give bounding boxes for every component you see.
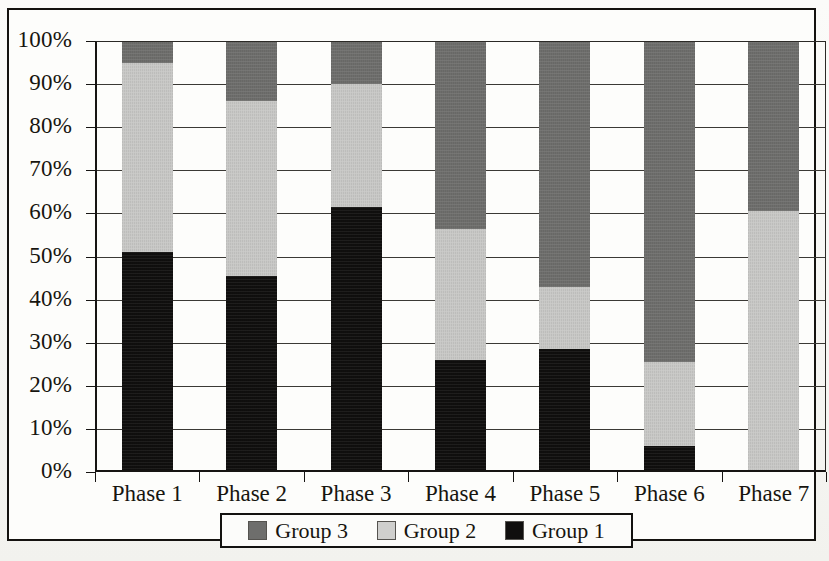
x-axis-label-phase-1: Phase 1 <box>95 482 199 506</box>
bar-segment-group1[interactable] <box>331 207 382 472</box>
bar-segment-group1[interactable] <box>435 360 486 472</box>
bar-segment-group3[interactable] <box>644 41 695 362</box>
bar-phase-3[interactable] <box>331 41 382 472</box>
bar-segment-group2[interactable] <box>435 229 486 360</box>
y-axis-tick <box>86 257 95 258</box>
y-axis-tick <box>86 472 95 473</box>
legend-swatch-group-1-icon <box>505 521 524 540</box>
bar-segment-group2[interactable] <box>644 362 695 446</box>
y-axis-label: 60% <box>9 200 72 223</box>
bar-segment-group1[interactable] <box>226 276 277 472</box>
y-axis-label: 90% <box>9 71 72 94</box>
figure-frame: 0%10%20%30%40%50%60%70%80%90%100% Phase … <box>7 8 816 541</box>
legend-item-group-1: Group 1 <box>505 520 605 542</box>
y-axis-tick <box>86 429 95 430</box>
y-axis-tick <box>86 213 95 214</box>
chart-screenshot: 0%10%20%30%40%50%60%70%80%90%100% Phase … <box>0 0 829 561</box>
legend-swatch-group-2-icon <box>377 521 396 540</box>
bar-segment-group2[interactable] <box>748 211 799 472</box>
plot-area <box>95 41 826 472</box>
legend-label-group-3: Group 3 <box>275 520 348 542</box>
legend-label-group-2: Group 2 <box>404 520 477 542</box>
bar-segment-group2[interactable] <box>226 101 277 276</box>
x-axis-label-phase-3: Phase 3 <box>304 482 408 506</box>
x-axis-tick <box>95 472 96 482</box>
bar-segment-group3[interactable] <box>226 41 277 101</box>
bar-phase-1[interactable] <box>122 41 173 472</box>
bar-phase-4[interactable] <box>435 41 486 472</box>
bar-segment-group3[interactable] <box>539 41 590 287</box>
y-axis-tick <box>86 41 95 42</box>
x-axis-label-phase-4: Phase 4 <box>408 482 512 506</box>
legend-label-group-1: Group 1 <box>532 520 605 542</box>
y-axis-label: 10% <box>9 416 72 439</box>
y-axis-label: 100% <box>9 28 72 51</box>
x-axis-label-phase-7: Phase 7 <box>722 482 826 506</box>
bar-segment-group2[interactable] <box>122 63 173 253</box>
y-axis-tick <box>86 127 95 128</box>
y-axis-tick <box>86 170 95 171</box>
x-axis-tick <box>722 472 723 482</box>
y-axis-label: 0% <box>9 459 72 482</box>
x-axis-tick <box>408 472 409 482</box>
y-axis-label: 30% <box>9 330 72 353</box>
y-axis-label: 40% <box>9 287 72 310</box>
bar-segment-group1[interactable] <box>539 349 590 472</box>
x-axis-tick <box>513 472 514 482</box>
legend-swatch-group-3-icon <box>248 521 267 540</box>
legend-item-group-2: Group 2 <box>377 520 477 542</box>
chart-legend: Group 3 Group 2 Group 1 <box>220 513 633 548</box>
x-axis-tick <box>304 472 305 482</box>
y-axis-tick <box>86 386 95 387</box>
legend-item-group-3: Group 3 <box>248 520 348 542</box>
bar-segment-group3[interactable] <box>748 41 799 211</box>
x-axis-tick <box>617 472 618 482</box>
y-axis-tick <box>86 84 95 85</box>
bar-segment-group3[interactable] <box>435 41 486 228</box>
bar-phase-5[interactable] <box>539 41 590 472</box>
bar-segment-group3[interactable] <box>331 41 382 84</box>
bar-segment-group1[interactable] <box>122 252 173 472</box>
x-axis-label-phase-2: Phase 2 <box>199 482 303 506</box>
bar-phase-7[interactable] <box>748 41 799 472</box>
bar-phase-6[interactable] <box>644 41 695 472</box>
bar-segment-group3[interactable] <box>122 41 173 63</box>
x-axis-label-phase-6: Phase 6 <box>617 482 721 506</box>
y-axis-tick <box>86 343 95 344</box>
x-axis-tick <box>199 472 200 482</box>
y-axis-label: 70% <box>9 157 72 180</box>
x-axis-label-phase-5: Phase 5 <box>513 482 617 506</box>
bar-segment-group2[interactable] <box>539 287 590 349</box>
y-axis-tick <box>86 300 95 301</box>
bar-phase-2[interactable] <box>226 41 277 472</box>
y-axis-label: 20% <box>9 373 72 396</box>
x-axis-tick <box>826 472 827 482</box>
bar-segment-group2[interactable] <box>331 84 382 207</box>
y-axis-label: 50% <box>9 244 72 267</box>
y-axis-label: 80% <box>9 114 72 137</box>
bar-segment-group1[interactable] <box>644 446 695 472</box>
